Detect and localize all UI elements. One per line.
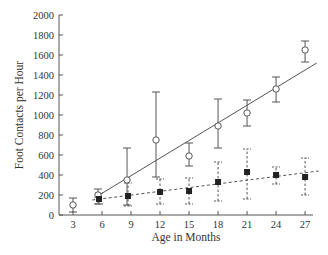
- x-tick-label: 12: [155, 219, 166, 230]
- filled-square-marker: [157, 189, 163, 195]
- chart-canvas: 0200400600800100012001400160018002000369…: [0, 0, 328, 255]
- open-circle-marker: [124, 177, 130, 183]
- filled-square-marker: [215, 179, 221, 185]
- x-tick-label: 9: [128, 219, 133, 230]
- x-tick-label: 3: [70, 219, 75, 230]
- filled-square-marker: [125, 193, 131, 199]
- y-tick-label: 1800: [33, 30, 54, 41]
- open-circle-marker: [302, 47, 308, 53]
- x-tick-label: 18: [213, 219, 224, 230]
- y-tick-label: 1600: [33, 50, 54, 61]
- x-tick-label: 6: [99, 219, 104, 230]
- open-circle-marker: [215, 123, 221, 129]
- foot-contacts-chart: 0200400600800100012001400160018002000369…: [0, 0, 328, 255]
- y-tick-label: 200: [38, 190, 54, 201]
- x-axis-label: Age in Months: [152, 231, 222, 244]
- y-tick-label: 800: [38, 130, 54, 141]
- error-bars: [69, 41, 309, 212]
- y-tick-label: 600: [38, 150, 54, 161]
- open-circle-marker: [273, 86, 279, 92]
- open-circle-marker: [186, 153, 192, 159]
- open-circle-marker: [244, 110, 250, 116]
- y-tick-label: 0: [49, 210, 54, 221]
- y-tick-label: 400: [38, 170, 54, 181]
- open-circle-marker: [70, 202, 76, 208]
- filled-square-marker: [96, 196, 102, 202]
- filled-square-marker: [244, 169, 250, 175]
- x-tick-label: 21: [242, 219, 253, 230]
- x-tick-label: 24: [271, 219, 282, 230]
- open-circle-marker: [153, 137, 159, 143]
- y-tick-label: 2000: [33, 10, 54, 21]
- y-tick-label: 1000: [33, 110, 54, 121]
- filled-square-marker: [273, 172, 279, 178]
- y-axis-label: Foot Contacts per Hour: [13, 61, 26, 169]
- y-tick-label: 1200: [33, 90, 54, 101]
- filled-square-marker: [302, 174, 308, 180]
- y-tick-label: 1400: [33, 70, 54, 81]
- x-tick-label: 15: [184, 219, 195, 230]
- x-tick-label: 27: [300, 219, 311, 230]
- filled-square-marker: [186, 188, 192, 194]
- axes: 0200400600800100012001400160018002000369…: [33, 10, 313, 231]
